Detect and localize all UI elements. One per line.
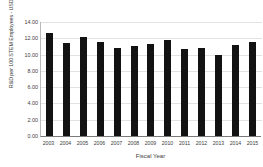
bar-slot bbox=[176, 22, 193, 136]
x-tick-label: 2011 bbox=[176, 139, 193, 147]
bar[interactable] bbox=[63, 43, 70, 136]
bar-slot bbox=[41, 22, 58, 136]
bar[interactable] bbox=[232, 45, 239, 136]
bar-slot bbox=[210, 22, 227, 136]
x-tick-label: 2007 bbox=[108, 139, 125, 147]
x-tick-label: 2015 bbox=[244, 139, 261, 147]
x-tick-label: 2005 bbox=[74, 139, 91, 147]
bar-series bbox=[41, 22, 261, 136]
bar-slot bbox=[143, 22, 160, 136]
bar-slot bbox=[75, 22, 92, 136]
y-tick-label: 14.00 bbox=[14, 19, 38, 25]
x-tick-label: 2009 bbox=[142, 139, 159, 147]
bar[interactable] bbox=[46, 33, 53, 136]
y-tick-label: 0.00 bbox=[14, 133, 38, 139]
y-tick-label: 6.00 bbox=[14, 84, 38, 90]
bar[interactable] bbox=[198, 48, 205, 136]
bar[interactable] bbox=[215, 55, 222, 136]
x-tick-label: 2014 bbox=[227, 139, 244, 147]
x-axis-title: Fiscal Year bbox=[40, 152, 261, 161]
bar-slot bbox=[193, 22, 210, 136]
x-tick-label: 2004 bbox=[57, 139, 74, 147]
bar[interactable] bbox=[114, 48, 121, 136]
bar-slot bbox=[109, 22, 126, 136]
bar-slot bbox=[126, 22, 143, 136]
bar[interactable] bbox=[80, 37, 87, 136]
bar[interactable] bbox=[164, 40, 171, 136]
plot-area bbox=[40, 22, 261, 137]
x-tick-label: 2012 bbox=[193, 139, 210, 147]
bar-slot bbox=[58, 22, 75, 136]
bar-slot bbox=[92, 22, 109, 136]
bar-slot bbox=[159, 22, 176, 136]
x-tick-label: 2006 bbox=[91, 139, 108, 147]
x-tick-label: 2013 bbox=[210, 139, 227, 147]
y-tick-label: 8.00 bbox=[14, 68, 38, 74]
x-tick-label: 2008 bbox=[125, 139, 142, 147]
y-tick-label: 2.00 bbox=[14, 117, 38, 123]
bar[interactable] bbox=[181, 49, 188, 136]
bar[interactable] bbox=[131, 46, 138, 136]
x-tick-label: 2010 bbox=[159, 139, 176, 147]
bar[interactable] bbox=[249, 42, 256, 136]
bar[interactable] bbox=[147, 44, 154, 136]
y-axis-tick-labels: 0.002.004.006.008.0010.0012.0014.00 bbox=[14, 18, 38, 140]
bar-slot bbox=[227, 22, 244, 136]
x-tick-label: 2003 bbox=[40, 139, 57, 147]
bar-slot bbox=[244, 22, 261, 136]
bar[interactable] bbox=[97, 42, 104, 136]
y-tick-label: 10.00 bbox=[14, 52, 38, 58]
x-axis-tick-labels: 2003200420052006200720082009201020112012… bbox=[40, 139, 261, 147]
bar-chart: R&D per 100 STEM Employees - USDA 0.002.… bbox=[0, 0, 263, 167]
y-tick-label: 12.00 bbox=[14, 35, 38, 41]
y-tick-label: 4.00 bbox=[14, 100, 38, 106]
